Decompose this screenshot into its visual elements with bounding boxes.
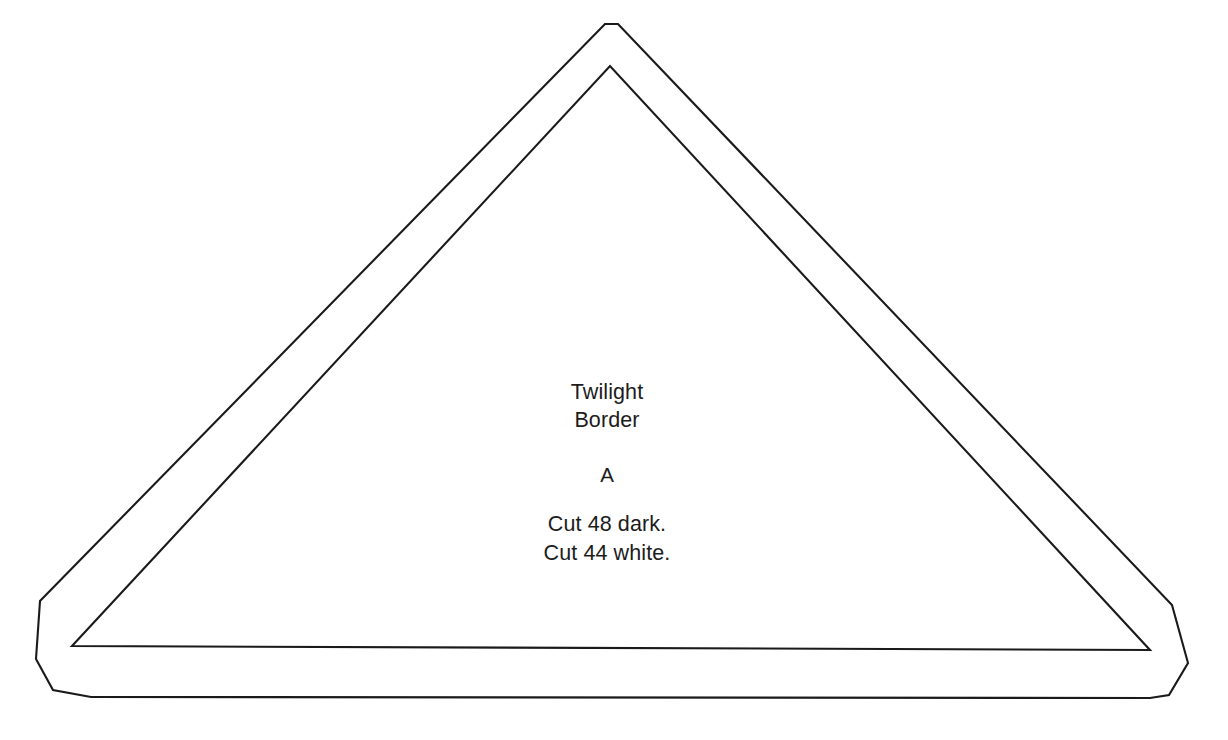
cut-instruction-line-2: Cut 44 white.	[0, 539, 1221, 568]
pattern-name-line-2: Border	[0, 406, 1221, 434]
pattern-name-label: Twilight Border	[0, 378, 1221, 435]
cut-instructions-label: Cut 48 dark. Cut 44 white.	[0, 510, 1221, 567]
template-drawing	[0, 0, 1228, 740]
cut-instruction-line-1: Cut 48 dark.	[0, 510, 1221, 539]
pattern-page: Twilight Border A Cut 48 dark. Cut 44 wh…	[0, 0, 1228, 740]
outer-cutting-line-path	[36, 24, 1188, 698]
pattern-name-line-1: Twilight	[0, 378, 1221, 406]
piece-letter-label: A	[0, 461, 1221, 488]
